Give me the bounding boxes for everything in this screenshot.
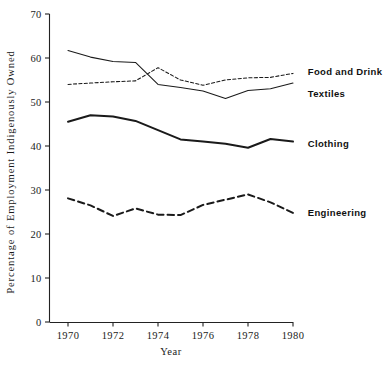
- y-axis-ticks: 010203040506070: [30, 9, 49, 328]
- x-axis-ticks: 197019721974197619781980: [57, 322, 305, 341]
- x-tick-label: 1980: [282, 330, 305, 341]
- y-axis-title: Percentage of Employment Indigenously Ow…: [5, 50, 16, 293]
- x-tick-label: 1972: [102, 330, 125, 341]
- y-tick-label: 0: [36, 317, 42, 328]
- y-tick-label: 10: [30, 273, 41, 284]
- x-axis-title: Year: [160, 346, 181, 357]
- y-tick-label: 70: [30, 9, 41, 20]
- y-tick-label: 40: [30, 141, 41, 152]
- series-labels-group: Food and DrinkTextilesClothingEngineerin…: [308, 66, 383, 218]
- y-tick-label: 20: [30, 229, 41, 240]
- y-tick-label: 50: [30, 97, 41, 108]
- chart-canvas: 010203040506070 197019721974197619781980…: [0, 0, 384, 368]
- y-tick-label: 30: [30, 185, 41, 196]
- x-tick-label: 1978: [237, 330, 260, 341]
- x-tick-label: 1976: [192, 330, 215, 341]
- y-tick-label: 60: [30, 53, 41, 64]
- series-line-clothing: [68, 115, 293, 148]
- series-line-textiles: [68, 51, 293, 99]
- series-label-clothing: Clothing: [308, 138, 349, 149]
- series-line-food-and-drink: [68, 68, 293, 86]
- series-label-engineering: Engineering: [308, 207, 367, 218]
- line-chart: 010203040506070 197019721974197619781980…: [0, 0, 384, 368]
- series-line-engineering: [68, 194, 293, 216]
- series-lines-group: [68, 51, 293, 216]
- x-tick-label: 1974: [147, 330, 170, 341]
- x-tick-label: 1970: [57, 330, 80, 341]
- series-label-food-and-drink: Food and Drink: [308, 66, 383, 77]
- series-label-textiles: Textiles: [308, 88, 345, 99]
